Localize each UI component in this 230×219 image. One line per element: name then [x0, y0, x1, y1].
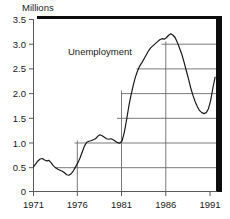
series-annotation-label: Unemployment [68, 46, 132, 57]
x-tick-label-1971: 1971 [23, 199, 44, 210]
y-tick-label-30: 3.0 [13, 39, 26, 50]
y-axis-ticks [29, 20, 33, 192]
y-tick-label-35: 3.5 [13, 14, 26, 25]
x-axis-tick-labels: 1971 1976 1981 1986 1991 [23, 199, 221, 210]
plot-area-background [33, 19, 216, 192]
y-axis-unit-label: Millions [22, 2, 54, 13]
x-tick-label-1991: 1991 [199, 199, 220, 210]
y-tick-label-00: 0 [21, 186, 26, 197]
x-tick-label-1986: 1986 [155, 199, 176, 210]
y-tick-label-15: 1.5 [13, 113, 26, 124]
x-axis-ticks [34, 192, 211, 197]
y-tick-label-20: 2.0 [13, 88, 26, 99]
y-tick-label-05: 0.5 [13, 162, 26, 173]
x-tick-label-1981: 1981 [111, 199, 132, 210]
x-tick-label-1976: 1976 [67, 199, 88, 210]
chart-canvas: Millions 3.5 3.0 2.5 2.0 1.5 1.0 0.5 0 [0, 0, 230, 219]
y-tick-label-25: 2.5 [13, 63, 26, 74]
y-tick-label-10: 1.0 [13, 138, 26, 149]
unemployment-chart: Millions 3.5 3.0 2.5 2.0 1.5 1.0 0.5 0 [0, 0, 230, 219]
y-axis-tick-labels: 3.5 3.0 2.5 2.0 1.5 1.0 0.5 0 [13, 14, 26, 197]
